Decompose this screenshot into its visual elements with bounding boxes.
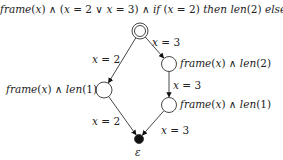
state-node-right2 [162,98,177,113]
node-label-right1: frame(x) ∧ len(2) [180,58,271,69]
edge-label-right2-end: x = 3 [161,125,189,136]
edge-label-start-right1: x = 3 [152,37,180,48]
edge-label-left-end: x = 2 [92,116,120,127]
edge-label-right1-right2: x = 3 [173,80,201,91]
edge-label-start-left: x = 2 [92,54,120,65]
node-label-left: frame(x) ∧ len(1) [6,84,97,95]
node-label-end: ε [135,147,141,158]
state-node-end [135,135,144,144]
node-label-right2: frame(x) ∧ len(1) [180,99,271,110]
state-node-left [96,82,112,98]
state-node-start-inner-ring [135,26,146,37]
graph-canvas [0,0,283,160]
transition-diagram: frame(x) ∧ (x = 2 ∨ x = 3) ∧ if (x = 2) … [0,0,283,160]
state-node-right1 [162,57,177,72]
